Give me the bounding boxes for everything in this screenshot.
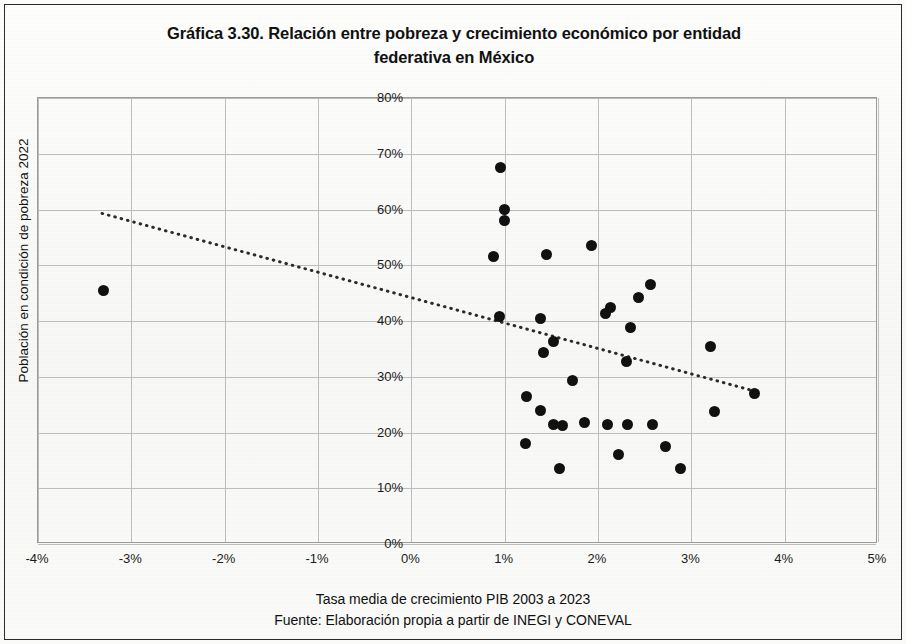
scatter-point <box>602 419 613 430</box>
scatter-point <box>499 215 510 226</box>
x-axis-tick-label: -4% <box>25 551 48 566</box>
gridline-vertical <box>225 98 226 542</box>
x-axis-title: Tasa media de crecimiento PIB 2003 a 202… <box>0 589 906 610</box>
plot-area <box>37 97 877 543</box>
x-axis-tick-labels: -4%-3%-2%-1%0%1%2%3%4%5% <box>37 551 877 571</box>
gridline-horizontal <box>38 377 876 378</box>
scatter-point <box>494 311 505 322</box>
scatter-point <box>622 419 633 430</box>
x-axis-tick-label: 4% <box>774 551 793 566</box>
scatter-point <box>613 449 624 460</box>
x-axis-tick-label: 1% <box>494 551 513 566</box>
trendline-path <box>102 213 754 391</box>
gridline-horizontal <box>38 210 876 211</box>
scatter-point <box>535 405 546 416</box>
gridline-vertical <box>785 98 786 542</box>
scatter-point <box>535 313 546 324</box>
gridline-vertical <box>878 98 879 542</box>
scatter-point <box>586 240 597 251</box>
gridline-vertical <box>691 98 692 542</box>
y-axis-title: Población en condición de pobreza 2022 <box>16 96 31 426</box>
scatter-point <box>621 356 632 367</box>
gridline-vertical <box>38 98 39 542</box>
scatter-point <box>645 279 656 290</box>
x-axis-tick-label: -1% <box>305 551 328 566</box>
scatter-point <box>705 341 716 352</box>
scatter-point <box>495 162 506 173</box>
scatter-point <box>633 292 644 303</box>
scatter-point <box>647 419 658 430</box>
gridline-horizontal <box>38 321 876 322</box>
x-axis-tick-label: 3% <box>681 551 700 566</box>
gridline-horizontal <box>38 544 876 545</box>
gridline-horizontal <box>38 433 876 434</box>
scatter-point <box>554 463 565 474</box>
source-note: Fuente: Elaboración propia a partir de I… <box>0 610 906 631</box>
scatter-point <box>557 420 568 431</box>
gridline-vertical <box>411 98 412 542</box>
gridline-horizontal <box>38 154 876 155</box>
scatter-point <box>709 406 720 417</box>
scatter-point <box>98 285 109 296</box>
scatter-point <box>749 388 760 399</box>
scatter-point <box>538 347 549 358</box>
scatter-point <box>488 251 499 262</box>
scatter-point <box>675 463 686 474</box>
scatter-point <box>625 322 636 333</box>
x-axis-tick-label: -3% <box>119 551 142 566</box>
scatter-point <box>605 302 616 313</box>
scatter-point <box>521 391 532 402</box>
x-axis-tick-label: -2% <box>212 551 235 566</box>
scatter-point <box>548 336 559 347</box>
gridline-horizontal <box>38 98 876 99</box>
chart-title: Gráfica 3.30. Relación entre pobreza y c… <box>96 22 812 70</box>
chart-title-line-2: federativa en México <box>374 48 534 66</box>
scatter-point <box>579 417 590 428</box>
gridline-vertical <box>131 98 132 542</box>
x-axis-tick-label: 2% <box>588 551 607 566</box>
x-axis-tick-label: 5% <box>868 551 887 566</box>
scatter-point <box>499 204 510 215</box>
gridline-vertical <box>598 98 599 542</box>
gridline-horizontal <box>38 265 876 266</box>
trendline <box>38 98 876 542</box>
chart-title-line-1: Gráfica 3.30. Relación entre pobreza y c… <box>167 24 741 42</box>
x-axis-tick-label: 0% <box>401 551 420 566</box>
scatter-point <box>520 438 531 449</box>
gridline-vertical <box>318 98 319 542</box>
scatter-point <box>567 375 578 386</box>
scatter-point <box>660 441 671 452</box>
gridline-horizontal <box>38 488 876 489</box>
scatter-point <box>541 249 552 260</box>
figure-container: Gráfica 3.30. Relación entre pobreza y c… <box>0 0 906 644</box>
